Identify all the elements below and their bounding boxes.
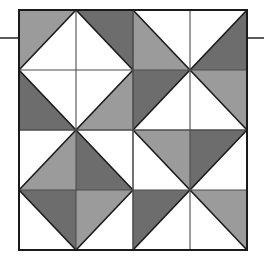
quilt-pattern-svg — [0, 0, 264, 271]
quilt-figure — [0, 0, 264, 271]
